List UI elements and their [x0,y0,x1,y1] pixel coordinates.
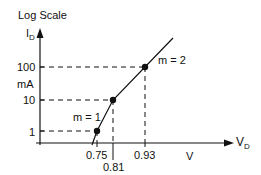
y-tick-1: 1 [29,127,35,138]
y-axis-label: ID [26,28,35,39]
x-tick-075: 0.75 [86,150,107,161]
x-axis-arrow-icon [224,140,234,147]
y-unit: mA [17,79,34,90]
data-point [110,97,116,103]
x-tick-093: 0.93 [134,150,155,161]
data-point [94,128,100,134]
y-axis-arrow-icon [37,28,44,38]
guide-lines [40,67,145,143]
slope-label-upper: m = 2 [158,55,186,66]
slope-label-lower: m = 1 [73,112,101,123]
y-tick-100: 100 [17,62,35,73]
data-point [142,64,148,70]
x-unit: V [186,151,193,162]
diagram-canvas [0,0,261,175]
x-tick-081: 0.81 [103,162,124,173]
scale-title: Log Scale [18,10,67,21]
y-tick-10: 10 [23,95,35,106]
x-axis-label: VD [236,136,250,148]
